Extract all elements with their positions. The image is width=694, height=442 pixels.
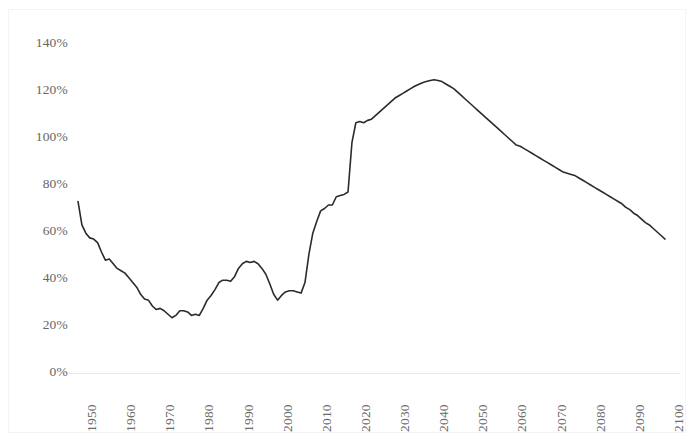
- chart-series-layer: [0, 0, 694, 442]
- series-line-debt-to-gdp: [78, 80, 665, 318]
- chart-container: 140%120%100%80%60%40%20%0% 1950196019701…: [0, 0, 694, 442]
